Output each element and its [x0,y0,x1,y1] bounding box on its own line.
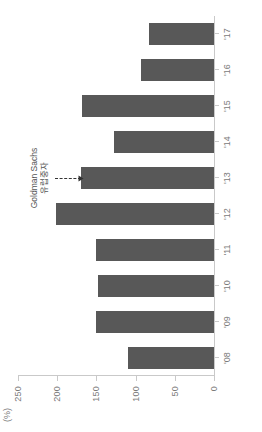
callout-label-line1: Goldman Sachs [29,138,40,218]
category-tick-label: '11 [222,233,232,267]
bar [81,167,214,189]
category-tick-label: '09 [222,305,232,339]
value-tick [175,376,176,381]
category-tick [214,285,219,286]
category-tick-label: '12 [222,197,232,231]
bar [82,95,214,117]
bar [98,275,214,297]
category-tick-label: '16 [222,53,232,87]
rotated-chart-container: (%) 050100150200250 '08'09'10'11'12'13'1… [0,0,262,432]
bar [141,59,214,81]
value-tick-label: 200 [52,386,62,426]
category-tick [214,213,219,214]
category-tick [214,249,219,250]
callout-label-line2: 유럽중자 [39,138,50,218]
value-tick-label: 100 [131,386,141,426]
category-tick [214,357,219,358]
bar [56,203,214,225]
category-tick-label: '15 [222,89,232,123]
value-axis-line [18,375,214,376]
category-tick [214,177,219,178]
category-tick [214,69,219,70]
value-tick-label: 0 [209,386,219,426]
plot-area: (%) 050100150200250 '08'09'10'11'12'13'1… [0,0,262,432]
category-tick-label: '13 [222,161,232,195]
axis-unit-label: (%) [2,408,12,422]
value-tick [57,376,58,381]
value-tick [136,376,137,381]
bar [128,347,214,369]
value-tick [18,376,19,381]
category-tick [214,33,219,34]
category-tick-label: '17 [222,17,232,51]
category-tick [214,141,219,142]
category-tick-label: '08 [222,341,232,375]
value-tick [96,376,97,381]
callout-arrow-head [78,176,83,182]
value-tick-label: 50 [170,386,180,426]
category-tick [214,105,219,106]
bar [96,239,214,261]
bar [96,311,214,333]
value-tick [214,376,215,381]
value-tick-label: 250 [13,386,23,426]
value-tick-label: 150 [91,386,101,426]
bar [149,23,214,45]
bar [114,131,214,153]
chart-figure: (%) 050100150200250 '08'09'10'11'12'13'1… [0,0,262,432]
category-tick-label: '14 [222,125,232,159]
callout-label: Goldman Sachs 유럽중자 [29,138,50,218]
category-axis-line [214,16,215,376]
category-tick [214,321,219,322]
category-tick-label: '10 [222,269,232,303]
callout-arrow-line [55,178,81,179]
